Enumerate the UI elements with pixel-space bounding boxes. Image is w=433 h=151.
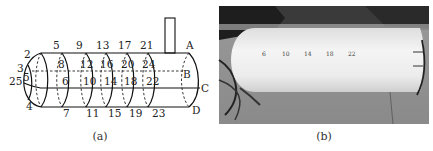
cylindrical-model [231,28,425,92]
label-C: C [201,82,209,94]
label-20: 20 [121,58,134,70]
hull-schematic: 5 9 13 17 21 8 12 16 20 24 6 10 14 18 22… [0,0,215,151]
label-4: 4 [26,100,33,112]
label-15: 15 [108,107,121,119]
mark-6: 6 [262,50,266,57]
panel-a-diagram: 5 9 13 17 21 8 12 16 20 24 6 10 14 18 22… [0,0,215,151]
label-11: 11 [86,107,99,119]
label-21: 21 [140,39,153,51]
label-24: 24 [142,58,156,70]
label-23: 23 [152,107,165,119]
label-D: D [192,104,200,116]
label-18: 18 [124,75,137,87]
label-25: 25 [9,75,22,87]
mark-10: 10 [282,50,290,57]
panel-b-photo: 6 10 14 18 22 (b) [215,0,433,151]
label-B: B [183,68,191,80]
nose-back-dashed [36,53,41,107]
label-8: 8 [58,58,65,70]
label-19: 19 [129,107,142,119]
tail-back-dashed [182,53,190,107]
label-5: 5 [53,39,60,51]
label-7: 7 [63,107,70,119]
label-A: A [185,39,194,51]
label-16: 16 [100,58,114,70]
mark-22: 22 [348,50,356,57]
nose-front-ring [41,53,48,107]
label-12: 12 [80,58,93,70]
mark-18: 18 [326,50,334,57]
label-2: 2 [24,48,31,60]
label-13: 13 [96,39,109,51]
label-9: 9 [76,39,83,51]
label-10: 10 [83,75,96,87]
label-6: 6 [62,75,69,87]
label-5-nose: 5 [23,71,30,83]
mast [165,18,175,53]
caption-a: (a) [92,130,107,143]
tail-outline [189,53,198,107]
label-17: 17 [118,39,131,51]
caption-b: (b) [316,130,332,143]
label-22: 22 [146,75,159,87]
mark-14: 14 [304,50,312,57]
model-photo: 6 10 14 18 22 (b) [215,0,433,151]
label-14: 14 [104,75,118,87]
